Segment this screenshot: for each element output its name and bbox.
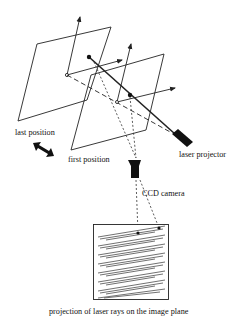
label-last-position: last position	[15, 128, 55, 137]
label-ccd-camera: CCD camera	[142, 189, 185, 198]
image-plane	[94, 225, 169, 300]
laser-scanning-diagram: last position first position laser proje…	[0, 0, 251, 324]
ccd-camera-icon	[128, 160, 141, 178]
laser-ray	[87, 55, 175, 134]
camera-sight-lines	[94, 62, 159, 233]
movement-double-arrow-icon	[33, 142, 54, 157]
laser-projector-icon	[172, 129, 193, 147]
last-position-plane	[18, 17, 172, 133]
first-position-plane	[71, 44, 175, 150]
caption: projection of laser rays on the image pl…	[49, 307, 189, 316]
label-laser-projector: laser projector	[179, 150, 226, 159]
label-first-position: first position	[68, 155, 110, 164]
